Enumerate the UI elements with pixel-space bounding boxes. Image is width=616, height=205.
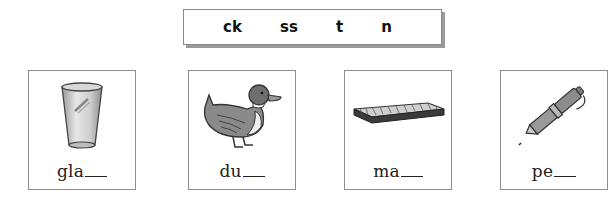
answer-blank[interactable] bbox=[401, 175, 423, 177]
word-prompt: pe bbox=[501, 161, 607, 181]
card-pen: pe bbox=[500, 70, 608, 190]
card-duck: du bbox=[188, 70, 296, 190]
mat-icon bbox=[345, 75, 451, 155]
card-glass: gla bbox=[28, 70, 136, 190]
word-prompt: gla bbox=[29, 161, 135, 181]
word-bank-box: ck ss t n bbox=[183, 9, 442, 45]
word-prompt: ma bbox=[345, 161, 451, 181]
glass-icon bbox=[29, 75, 135, 155]
word-bank-item-ck[interactable]: ck bbox=[223, 18, 242, 36]
card-mat: ma bbox=[344, 70, 452, 190]
duck-icon bbox=[189, 75, 295, 155]
word-bank-item-n[interactable]: n bbox=[381, 18, 392, 36]
answer-blank[interactable] bbox=[85, 175, 107, 177]
answer-blank[interactable] bbox=[243, 175, 265, 177]
word-prompt: du bbox=[189, 161, 295, 181]
word-bank-item-ss[interactable]: ss bbox=[280, 18, 298, 36]
pen-icon bbox=[501, 75, 607, 155]
word-bank-item-t[interactable]: t bbox=[336, 18, 343, 36]
answer-blank[interactable] bbox=[554, 175, 576, 177]
